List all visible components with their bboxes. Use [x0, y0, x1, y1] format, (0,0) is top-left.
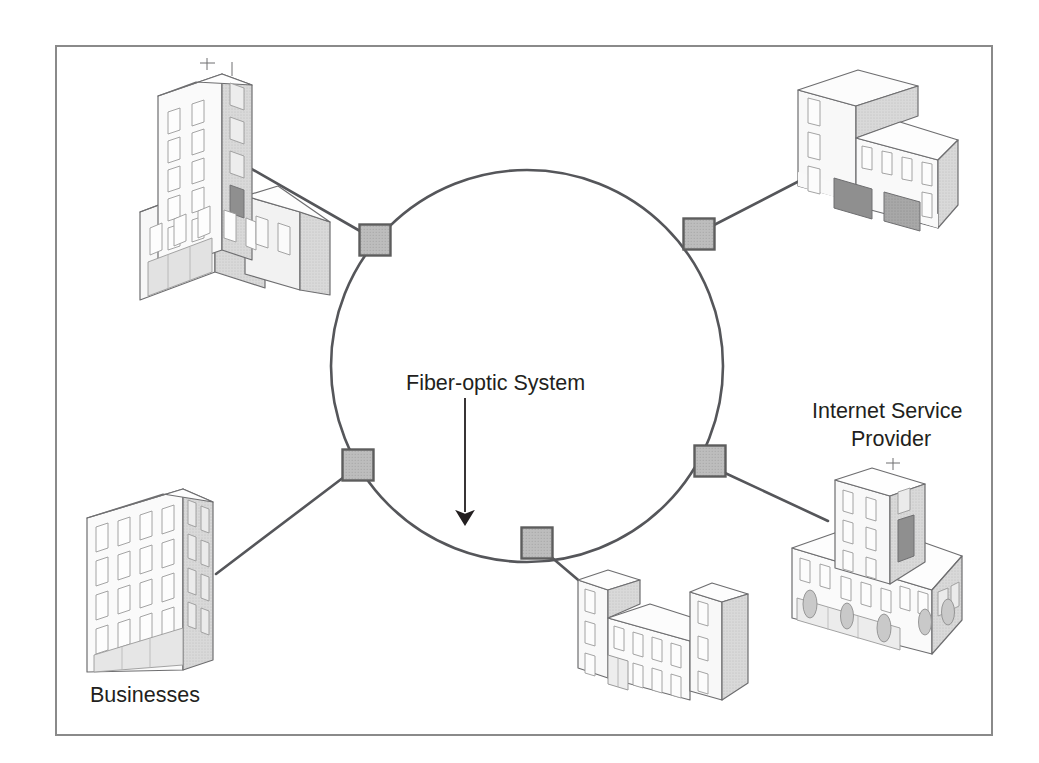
isp-label-line2: Provider	[851, 427, 931, 451]
figure-root: Fiber-optic System Businesses Internet S…	[0, 0, 1039, 763]
link-node-ne-to-building-top-right	[714, 177, 807, 225]
node-southeast[interactable]	[695, 446, 726, 477]
isp-label-line1: Internet Service	[812, 399, 963, 423]
node-southwest[interactable]	[343, 450, 374, 481]
building-bottom-left-block	[87, 489, 213, 672]
node-northwest[interactable]	[360, 225, 391, 256]
building-bottom-center-ushape	[578, 570, 748, 700]
businesses-label: Businesses	[90, 683, 200, 707]
link-node-se-to-building-isp	[725, 473, 828, 521]
building-top-left-tower	[140, 58, 330, 300]
fiber-optic-system-label: Fiber-optic System	[406, 371, 585, 395]
node-south[interactable]	[522, 528, 553, 559]
network-topology-diagram: Fiber-optic System Businesses Internet S…	[0, 0, 1039, 763]
building-internet-service-provider	[792, 458, 962, 654]
building-top-right-lshape	[798, 70, 958, 231]
link-node-sw-to-building-bottom-left	[216, 477, 344, 574]
node-northeast[interactable]	[684, 219, 715, 250]
